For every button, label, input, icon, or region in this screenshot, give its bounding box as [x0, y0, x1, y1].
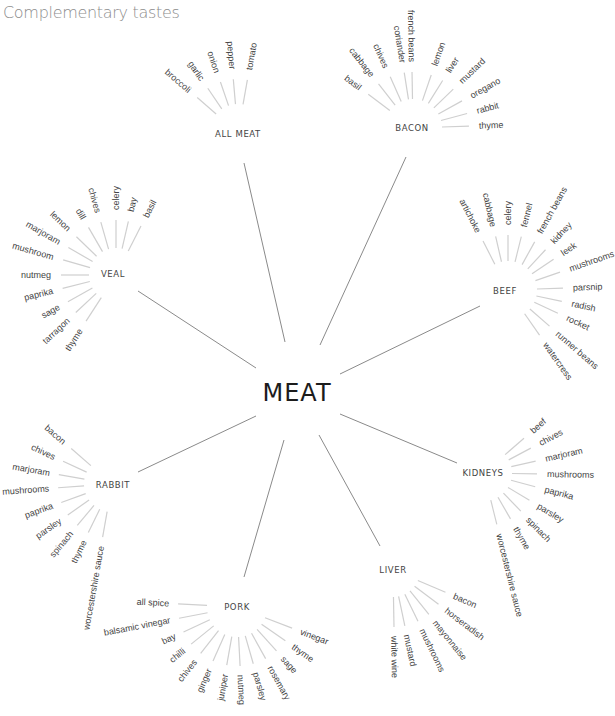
taste-label: garlic [186, 59, 207, 83]
spoke-line [103, 512, 108, 538]
taste-item: radish [536, 296, 596, 313]
taste-item: celery [111, 185, 121, 248]
taste-item: marjoram [12, 462, 85, 480]
taste-label: fennel [519, 202, 535, 228]
spoke-line [442, 126, 469, 127]
spoke-line [428, 81, 442, 104]
taste-item: cabbage [481, 192, 502, 262]
spoke-line [245, 636, 253, 664]
cluster-label: RABBIT [96, 480, 131, 490]
taste-label: leek [559, 240, 579, 258]
spoke-line [63, 461, 87, 472]
taste-item: bay [122, 196, 139, 249]
spoke-line [418, 581, 446, 593]
taste-label: sage [279, 654, 300, 675]
taste-item: white wine [389, 597, 400, 678]
link-line-rabbit [138, 416, 256, 472]
taste-item: dill [74, 207, 103, 252]
spoke-line [58, 486, 84, 488]
taste-item: paprika [23, 494, 85, 521]
taste-label: thyme [63, 327, 85, 353]
link-line-beef [340, 306, 480, 374]
taste-label: tomato [244, 42, 259, 71]
taste-label: chives [30, 442, 58, 462]
taste-label: vinegar [299, 627, 330, 647]
taste-label: broccoli [163, 67, 193, 95]
taste-item: onion [205, 50, 228, 106]
cluster-label: VEAL [101, 269, 125, 279]
spoke-line [511, 461, 535, 467]
taste-item: mushrooms [512, 469, 595, 480]
spoke-line [243, 80, 247, 105]
cluster-all-meat: ALL MEATbroccoligarliconionpeppertomato [163, 41, 261, 139]
spoke-line [393, 597, 394, 627]
spoke-line [220, 82, 228, 106]
taste-item: mushroom [11, 241, 90, 268]
taste-label: radish [571, 299, 597, 314]
taste-item: tomato [243, 42, 259, 104]
taste-label: cabbage [347, 46, 376, 79]
taste-label: dill [74, 207, 88, 222]
spoke-line [434, 89, 453, 108]
taste-item: fennel [515, 202, 534, 262]
spoke-line [522, 242, 535, 265]
link-line-all-meat [244, 163, 285, 342]
spoke-line [503, 493, 520, 511]
taste-label: mushroom [11, 241, 55, 262]
taste-clusters: ALL MEATbroccoligarliconionpeppertomatoB… [2, 10, 615, 705]
taste-item: parsnip [537, 282, 603, 293]
taste-label: paprika [23, 501, 54, 520]
taste-item: worcestershire sauce [81, 512, 107, 632]
taste-label: pepper [225, 41, 237, 70]
cluster-label: PORK [224, 602, 250, 612]
spoke-line [530, 309, 550, 326]
spoke-line [498, 497, 511, 519]
taste-label: paprika [544, 484, 575, 501]
spoke-line [233, 79, 235, 104]
spoke-line [71, 449, 91, 466]
spoke-line [509, 448, 531, 460]
taste-label: mushrooms [2, 483, 50, 496]
taste-label: ginger [195, 667, 214, 694]
spoke-line [63, 282, 90, 289]
taste-label: french beans [406, 10, 417, 63]
spoke-line [63, 260, 90, 268]
spoke-line [77, 505, 94, 525]
taste-label: rabbit [475, 100, 500, 116]
spoke-line [379, 84, 396, 105]
taste-label: bacon [43, 423, 68, 447]
taste-item: broccoli [163, 67, 216, 114]
taste-label: thyme [479, 120, 504, 131]
link-line-bacon [320, 157, 406, 345]
meat-pairings-diagram: ALL MEATbroccoligarliconionpeppertomatoB… [0, 0, 615, 716]
taste-label: mushrooms [547, 469, 595, 480]
taste-label: chilli [167, 646, 187, 665]
taste-label: artichoke [457, 197, 482, 234]
spoke-line [61, 494, 85, 503]
taste-label: juniper [215, 673, 230, 702]
taste-label: marjoram [544, 445, 583, 463]
taste-item: nutmeg [236, 637, 248, 705]
link-line-kidneys [340, 414, 457, 463]
cluster-label: KIDNEYS [462, 468, 503, 478]
link-line-liver [319, 435, 380, 546]
spoke-line [399, 596, 405, 625]
center-label: MEAT [262, 379, 331, 407]
link-line-veal [138, 291, 256, 368]
taste-label: marjoram [12, 462, 51, 478]
taste-label: chives [537, 427, 565, 448]
taste-label: oregano [468, 76, 502, 101]
taste-label: coriander [392, 25, 408, 64]
taste-label: basil [342, 73, 363, 92]
taste-item: celery [503, 200, 513, 261]
spoke-line [179, 613, 207, 619]
taste-item: pepper [225, 41, 237, 104]
spoke-line [208, 88, 222, 109]
spoke-line [536, 296, 561, 301]
taste-label: onion [205, 50, 222, 74]
taste-label: beef [528, 416, 548, 435]
taste-item: rabbit [441, 100, 500, 120]
taste-item: coriander [392, 25, 409, 99]
taste-item: thyme [442, 120, 504, 131]
taste-label: chives [175, 657, 199, 684]
